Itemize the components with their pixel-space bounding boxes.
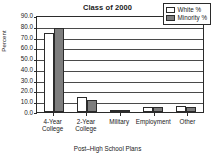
bar — [44, 33, 54, 112]
y-axis-tick-label: 70.0 — [3, 35, 33, 41]
bar — [176, 106, 186, 112]
bar — [120, 110, 130, 112]
x-axis-tick-label-line: 4-Year — [36, 118, 69, 125]
bar-group — [70, 17, 103, 112]
bar — [143, 107, 153, 112]
y-axis-tick-label: 30.0 — [3, 78, 33, 84]
bar — [54, 28, 64, 112]
x-axis-tick — [170, 113, 204, 117]
legend-item: White % — [166, 6, 207, 14]
x-axis-title: Post–High School Plans — [0, 145, 215, 152]
x-axis-tick-label-line: Military — [103, 118, 136, 125]
bar-groups — [37, 17, 203, 112]
x-axis-tick-label-line: 2-Year — [69, 118, 102, 125]
x-axis-tick-label-line: College — [69, 125, 102, 132]
x-axis-tick-label: Other — [171, 118, 204, 133]
legend-swatch — [166, 7, 175, 13]
legend: White %Minority % — [163, 3, 211, 25]
y-axis-tick-label: 80.0 — [3, 24, 33, 30]
x-axis-tick-label-line: Other — [171, 118, 204, 125]
y-axis-tick-label: 20.0 — [3, 88, 33, 94]
bar-group — [137, 17, 170, 112]
x-axis-ticks — [36, 113, 204, 117]
x-axis-tick-label: 4-YearCollege — [36, 118, 69, 133]
legend-label: Minority % — [178, 15, 207, 21]
x-axis-tick-label-line: Employment — [136, 118, 171, 125]
y-axis-tick-label: 40.0 — [3, 67, 33, 73]
x-axis-tick-label: 2-YearCollege — [69, 118, 102, 133]
bar-group — [170, 17, 203, 112]
bar-group — [37, 17, 70, 112]
x-axis-tick — [137, 113, 171, 117]
x-axis-tick — [70, 113, 104, 117]
y-axis-tick-labels: 90.080.070.060.050.040.030.020.010.00.0 — [0, 16, 33, 113]
bar — [186, 107, 196, 112]
x-axis-tick — [36, 113, 70, 117]
y-axis-tick-label: 50.0 — [3, 56, 33, 62]
legend-label: White % — [178, 7, 201, 13]
bar — [153, 107, 163, 112]
bar-group — [103, 17, 136, 112]
bar — [77, 97, 87, 112]
x-axis-tick-label: Military — [103, 118, 136, 133]
legend-swatch — [166, 15, 175, 21]
x-axis-tick — [103, 113, 137, 117]
x-axis-tick-label-line: College — [36, 125, 69, 132]
bar — [87, 100, 97, 112]
plot-area — [36, 16, 204, 113]
x-axis-tick-labels: 4-YearCollege2-YearCollegeMilitaryEmploy… — [36, 118, 204, 133]
bar — [110, 110, 120, 112]
y-axis-tick-label: 10.0 — [3, 99, 33, 105]
bar-chart: Class of 2000 Percent 90.080.070.060.050… — [0, 0, 215, 164]
y-axis-tick-label: 90.0 — [3, 13, 33, 19]
x-axis-tick-label: Employment — [136, 118, 171, 133]
y-axis-tick-label: 60.0 — [3, 45, 33, 51]
legend-item: Minority % — [166, 14, 207, 22]
y-axis-tick-label: 0.0 — [3, 110, 33, 116]
